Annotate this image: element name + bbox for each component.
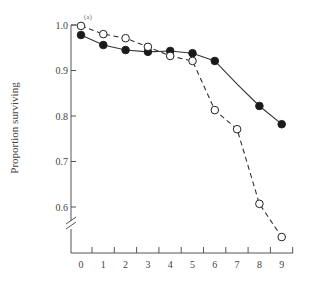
- panel-label: (a): [84, 14, 92, 20]
- y-tick-label: 1.0: [56, 20, 69, 31]
- y-tick-label: 0.9: [56, 65, 69, 76]
- x-tick-label: 3: [145, 259, 150, 270]
- y-tick-label: 0.8: [56, 111, 69, 122]
- survival-line-chart: 1.00.90.80.70.60123456789: [0, 0, 311, 285]
- x-tick-label: 0: [79, 259, 84, 270]
- x-tick-label: 1: [101, 259, 106, 270]
- y-axis-label: Proportion surviving: [8, 82, 20, 173]
- open-circle-marker: [144, 43, 152, 51]
- open-circle-marker: [100, 30, 108, 38]
- filled-circle-marker: [189, 49, 197, 57]
- open-circle-marker: [122, 34, 130, 42]
- open-circle-marker: [256, 200, 264, 208]
- x-tick-label: 4: [168, 259, 173, 270]
- dashed-series-line: [81, 26, 282, 237]
- x-tick-label: 7: [235, 259, 240, 270]
- filled-circle-marker: [77, 31, 85, 39]
- filled-circle-marker: [122, 46, 130, 54]
- x-tick-label: 2: [123, 259, 128, 270]
- x-tick-label: 6: [212, 259, 217, 270]
- open-circle-marker: [278, 233, 286, 241]
- solid-series-line: [81, 35, 282, 124]
- open-circle-marker: [211, 106, 219, 114]
- open-circle-marker: [233, 125, 241, 133]
- open-circle-marker: [166, 52, 174, 60]
- x-tick-label: 9: [279, 259, 284, 270]
- filled-circle-marker: [211, 57, 219, 65]
- x-tick-label: 5: [190, 259, 195, 270]
- y-tick-label: 0.7: [56, 156, 69, 167]
- filled-circle-marker: [256, 102, 264, 110]
- filled-circle-marker: [100, 41, 108, 49]
- open-circle-marker: [77, 22, 85, 30]
- filled-circle-marker: [278, 120, 286, 128]
- open-circle-marker: [189, 57, 197, 65]
- x-tick-label: 8: [257, 259, 262, 270]
- y-tick-label: 0.6: [56, 202, 69, 213]
